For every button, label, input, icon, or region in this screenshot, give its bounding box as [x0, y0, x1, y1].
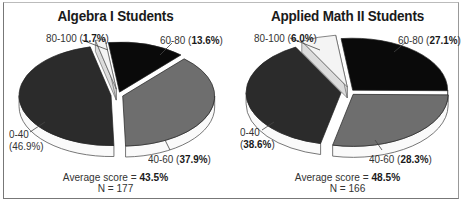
- sample-size: N = 166: [241, 183, 454, 194]
- label-0-40: 0-40 (38.6%): [240, 126, 275, 150]
- label-80-100: 80-100 (1.7%): [46, 32, 109, 44]
- chart-panel-applied-math-2: Applied Math II Students 80-100 (6.0%) 6…: [232, 0, 463, 207]
- slice-40-60: [333, 94, 448, 146]
- label-60-80: 60-80 (27.1%): [398, 34, 461, 46]
- label-80-100: 80-100 (6.0%): [254, 32, 317, 44]
- label-40-60: 40-60 (37.9%): [148, 153, 211, 165]
- slice-60-80: [341, 38, 448, 91]
- chart-panel-algebra-1: Algebra I Students 80-100 (1.7%) 60-80 (…: [0, 0, 231, 207]
- label-40-60: 40-60 (28.3%): [369, 153, 432, 165]
- label-60-80: 60-80 (13.6%): [160, 34, 223, 46]
- label-0-40: 0-40 (46.9%): [9, 128, 44, 152]
- sample-size: N = 177: [9, 183, 222, 194]
